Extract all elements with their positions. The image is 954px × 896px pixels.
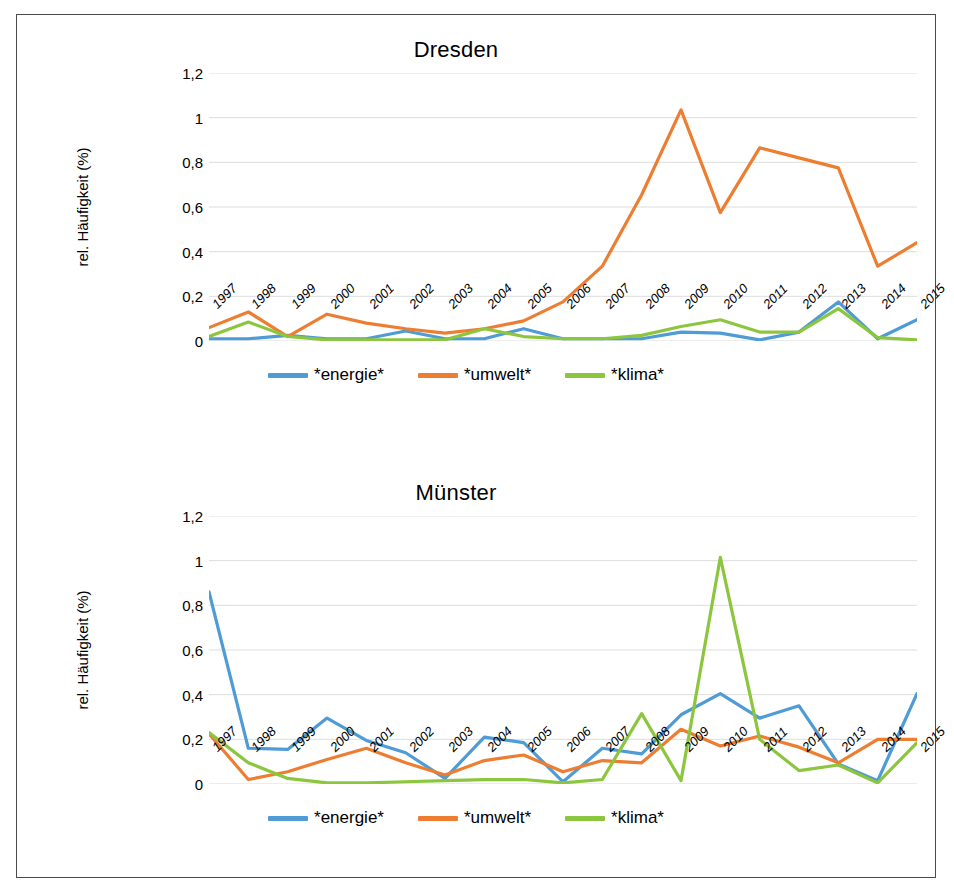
y-tick-label: 0,8 bbox=[182, 154, 203, 171]
legend-label-energie: *energie* bbox=[314, 365, 384, 385]
legend-swatch-klima bbox=[565, 373, 605, 378]
y-axis-title-dresden: rel. Häufigkeit (%) bbox=[74, 147, 91, 266]
y-ticks-dresden: 00,20,40,60,811,2 bbox=[163, 73, 209, 341]
y-tick-label: 1,2 bbox=[182, 508, 203, 525]
legend-label-klima: *klima* bbox=[611, 365, 664, 385]
chart-dresden: Dresden rel. Häufigkeit (%) 00,20,40,60,… bbox=[17, 27, 935, 447]
legend-item-umwelt[interactable]: *umwelt* bbox=[418, 808, 531, 828]
y-ticks-muenster: 00,20,40,60,811,2 bbox=[163, 516, 209, 784]
y-tick-label: 0,2 bbox=[182, 288, 203, 305]
legend-item-energie[interactable]: *energie* bbox=[268, 365, 384, 385]
y-tick-label: 0,8 bbox=[182, 597, 203, 614]
y-tick-label: 1,2 bbox=[182, 65, 203, 82]
y-tick-label: 1 bbox=[195, 109, 203, 126]
legend-item-umwelt[interactable]: *umwelt* bbox=[418, 365, 531, 385]
y-tick-label: 0 bbox=[195, 776, 203, 793]
y-tick-label: 0,4 bbox=[182, 243, 203, 260]
legend-item-energie[interactable]: *energie* bbox=[268, 808, 384, 828]
y-tick-label: 0,4 bbox=[182, 686, 203, 703]
y-axis-title-muenster: rel. Häufigkeit (%) bbox=[74, 590, 91, 709]
legend-swatch-umwelt bbox=[418, 816, 458, 821]
legend-label-umwelt: *umwelt* bbox=[464, 365, 531, 385]
legend-swatch-umwelt bbox=[418, 373, 458, 378]
chart-title-dresden: Dresden bbox=[17, 27, 935, 63]
legend-label-umwelt: *umwelt* bbox=[464, 808, 531, 828]
legend-swatch-energie bbox=[268, 816, 308, 821]
legend-swatch-klima bbox=[565, 816, 605, 821]
legend-label-klima: *klima* bbox=[611, 808, 664, 828]
legend-item-klima[interactable]: *klima* bbox=[565, 808, 664, 828]
y-tick-label: 0,2 bbox=[182, 731, 203, 748]
legend-swatch-energie bbox=[268, 373, 308, 378]
legend-muenster: *energie* *umwelt* *klima* bbox=[17, 808, 935, 828]
y-tick-label: 0,6 bbox=[182, 199, 203, 216]
chart-title-muenster: Münster bbox=[17, 470, 935, 506]
x-ticks-dresden: 1997199819992000200120022003200420052006… bbox=[209, 297, 917, 355]
y-tick-label: 1 bbox=[195, 552, 203, 569]
x-ticks-muenster: 1997199819992000200120022003200420052006… bbox=[209, 740, 917, 798]
legend-label-energie: *energie* bbox=[314, 808, 384, 828]
y-tick-label: 0 bbox=[195, 333, 203, 350]
figure-frame: Dresden rel. Häufigkeit (%) 00,20,40,60,… bbox=[16, 14, 936, 878]
chart-muenster: Münster rel. Häufigkeit (%) 00,20,40,60,… bbox=[17, 470, 935, 870]
legend-item-klima[interactable]: *klima* bbox=[565, 365, 664, 385]
legend-dresden: *energie* *umwelt* *klima* bbox=[17, 365, 935, 385]
y-tick-label: 0,6 bbox=[182, 642, 203, 659]
